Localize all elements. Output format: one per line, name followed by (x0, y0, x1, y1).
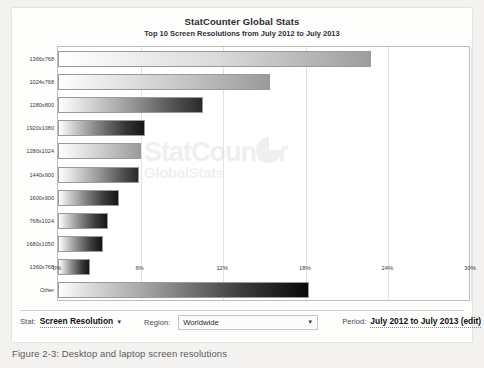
chart-plot-area: StatCounter GlobalStats 1366x7681024x768… (57, 46, 470, 301)
x-tick-label: 12% (216, 265, 228, 271)
bar[interactable] (58, 259, 90, 275)
y-axis-label: 1680x1050 (0, 236, 54, 252)
chart-title: StatCounter Global Stats (12, 16, 472, 28)
bar-row: 1440x900 (58, 167, 469, 183)
y-axis-label: Other (0, 282, 54, 298)
y-axis-label: 1280x1024 (0, 143, 54, 159)
bar[interactable] (58, 282, 309, 298)
y-axis-label: 1024x768 (0, 74, 54, 90)
region-select[interactable]: Worldwide ▼ (178, 315, 318, 330)
bar[interactable] (58, 143, 141, 159)
bar-row: 1680x1050 (58, 236, 469, 252)
bar[interactable] (58, 190, 119, 206)
bar-row: 1920x1080 (58, 120, 469, 136)
bar[interactable] (58, 97, 203, 113)
chevron-down-icon: ▼ (307, 319, 313, 325)
x-tick-label: 30% (464, 265, 476, 271)
bar[interactable] (58, 236, 103, 252)
bar[interactable] (58, 213, 108, 229)
period-control[interactable]: Period: July 2012 to July 2013 (edit) (342, 316, 481, 328)
x-tick-label: 24% (382, 265, 394, 271)
statcounter-chart-screenshot: StatCounter Global Stats Top 10 Screen R… (12, 8, 472, 342)
bar-row: 1024x768 (58, 74, 469, 90)
stat-control[interactable]: Stat: Screen Resolution ▼ (20, 316, 122, 328)
scanned-page-background: StatCounter Global Stats Top 10 Screen R… (0, 0, 484, 368)
y-axis-label: 1280x800 (0, 97, 54, 113)
x-tick-label: 0% (53, 265, 61, 271)
stat-label: Stat: (20, 317, 36, 326)
y-axis-label: 1366x768 (0, 51, 54, 67)
bar-row: 1600x900 (58, 190, 469, 206)
region-value: Worldwide (183, 318, 218, 327)
bar[interactable] (58, 51, 371, 67)
period-label: Period: (342, 317, 366, 326)
chart-controls-bar: Stat: Screen Resolution ▼ Region: Worldw… (20, 310, 464, 333)
chevron-down-icon[interactable]: ▼ (116, 319, 122, 325)
y-axis-label: 1920x1080 (0, 120, 54, 136)
y-axis-label: 1360x768 (0, 259, 54, 275)
x-tick-label: 6% (135, 265, 143, 271)
y-axis-label: 768x1024 (0, 213, 54, 229)
bar-row: 1366x768 (58, 51, 469, 67)
y-axis-label: 1600x900 (0, 190, 54, 206)
bar-row: 768x1024 (58, 213, 469, 229)
region-control[interactable]: Region: Worldwide ▼ (144, 315, 318, 330)
bar-row: Other (58, 282, 469, 298)
gridline (471, 47, 472, 300)
bar-row: 1280x1024 (58, 143, 469, 159)
y-axis-label: 1440x900 (0, 167, 54, 183)
bar[interactable] (58, 74, 270, 90)
region-label: Region: (144, 318, 170, 327)
bar[interactable] (58, 120, 145, 136)
stat-value[interactable]: Screen Resolution (40, 316, 114, 328)
period-value[interactable]: July 2012 to July 2013 (edit) (370, 316, 481, 328)
bar-row: 1280x800 (58, 97, 469, 113)
chart-subtitle: Top 10 Screen Resolutions from July 2012… (12, 28, 472, 39)
bar[interactable] (58, 167, 139, 183)
figure-caption: Figure 2-3: Desktop and laptop screen re… (12, 348, 227, 359)
bar-row: 1360x768 (58, 259, 469, 275)
chart-title-block: StatCounter Global Stats Top 10 Screen R… (12, 16, 472, 39)
x-tick-label: 18% (299, 265, 311, 271)
